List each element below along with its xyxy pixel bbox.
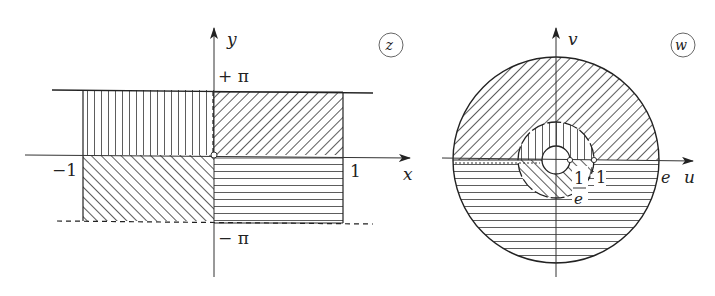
region-lower-right — [214, 158, 343, 223]
tick-plus-pi: + π — [218, 66, 249, 86]
label-one: 1 — [596, 168, 606, 187]
origin-point — [211, 152, 217, 158]
label-inv-e-den: e — [574, 190, 583, 208]
x-axis-label: x — [403, 164, 413, 184]
tick-one: 1 — [350, 161, 361, 181]
tick-minus-one: −1 — [52, 160, 77, 180]
point-inv-e — [567, 157, 572, 162]
region-upper-left — [83, 90, 214, 155]
z-plane-badge: z — [379, 33, 403, 57]
region-lower-left — [83, 155, 214, 221]
tick-minus-pi: − π — [218, 228, 249, 248]
y-axis-label: y — [226, 29, 237, 49]
z-plane: y x + π − π −1 1 z — [25, 28, 413, 277]
v-axis-label: v — [568, 29, 578, 49]
region-upper-right — [214, 92, 343, 155]
svg-text:w: w — [675, 37, 687, 53]
svg-text:z: z — [385, 37, 394, 53]
conformal-map-figure: y x + π − π −1 1 z — [0, 0, 715, 296]
label-e: e — [661, 168, 670, 187]
w-plane-badge: w — [671, 33, 695, 57]
label-inv-e-num: 1 — [574, 169, 584, 188]
point-one — [591, 157, 596, 162]
u-axis-label: u — [684, 167, 695, 187]
w-plane: 1 e 1 e u v w — [442, 28, 695, 277]
